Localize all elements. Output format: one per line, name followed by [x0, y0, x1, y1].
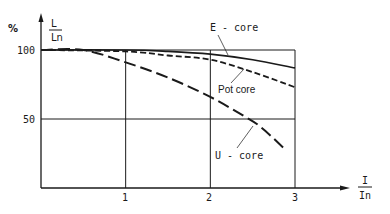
axes — [39, 13, 351, 191]
y-axis-label-numerator: L — [51, 18, 57, 29]
leader-u-core — [237, 126, 253, 148]
annotation-e-core: E - core — [210, 22, 258, 33]
x-axis-label-numerator: I — [362, 175, 368, 186]
series-line-e-core — [41, 50, 295, 68]
x-tick-label-3: 3 — [292, 192, 298, 203]
x-tick-label-2: 2 — [206, 192, 212, 203]
x-axis-label-denominator: In — [359, 190, 371, 201]
y-axis-arrow-icon — [39, 13, 44, 22]
y-axis-label-denominator: Ln — [51, 32, 63, 43]
series-line-u-core — [41, 49, 287, 151]
annotation-u-core: U - core — [215, 150, 263, 161]
grid — [41, 50, 295, 188]
y-tick-label-50: 50 — [23, 114, 35, 125]
x-tick-label-1: 1 — [122, 192, 128, 203]
x-axis-arrow-icon — [340, 186, 350, 191]
series-line-pot-core — [41, 50, 295, 87]
series-group — [41, 49, 295, 151]
y-axis-unit: % — [8, 23, 18, 34]
chart: % L Ln I In 100 50 1 2 3 E - core Pot co… — [0, 0, 390, 214]
annotation-pot-core: Pot core — [218, 84, 256, 95]
y-tick-label-100: 100 — [17, 45, 35, 56]
leader-e-core — [218, 35, 228, 55]
leader-pot-core — [231, 69, 244, 83]
